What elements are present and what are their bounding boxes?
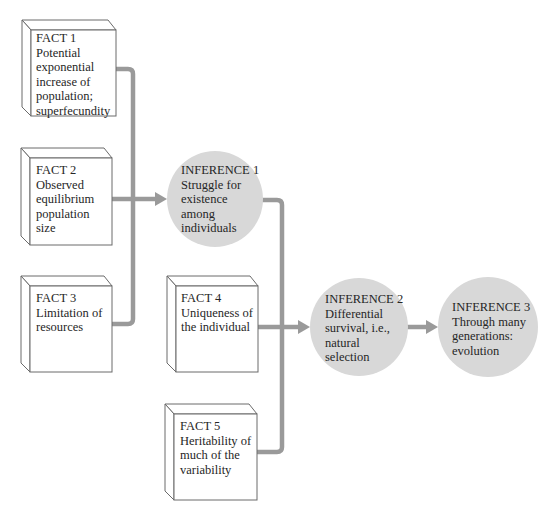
fact-1-line: exponential <box>36 60 110 75</box>
fact-1-line: population; <box>36 89 110 104</box>
box-left-bevel <box>22 20 31 116</box>
inference-2-line: selection <box>325 350 403 365</box>
connector-fact-1 <box>116 69 133 199</box>
inference-2-text: INFERENCE 2 Differential survival, i.e.,… <box>325 292 403 365</box>
connector-group-inference-3 <box>407 320 438 334</box>
fact-2-line: size <box>36 221 94 236</box>
fact-1-line: Potential <box>36 46 110 61</box>
arrowhead-icon <box>426 320 438 334</box>
fact-2-line: Observed <box>36 178 94 193</box>
connector-fact-3 <box>112 199 133 324</box>
arrowhead-icon <box>298 320 310 334</box>
fact-5-title: FACT 5 <box>180 419 251 434</box>
box-top-bevel <box>21 148 112 158</box>
box-left-bevel <box>21 148 30 245</box>
fact-5-line: variability <box>180 463 251 478</box>
fact-5-line: much of the <box>180 448 251 463</box>
fact-1-line: superfecundity <box>36 104 110 119</box>
fact-4-title: FACT 4 <box>181 291 253 306</box>
connector-group-inference-1 <box>112 69 167 324</box>
fact-2-line: equilibrium <box>36 192 94 207</box>
fact-5-text: FACT 5 Heritability of much of the varia… <box>180 419 251 477</box>
fact-3-title: FACT 3 <box>36 291 102 306</box>
box-left-bevel <box>165 404 174 500</box>
inference-2-line: survival, i.e., <box>325 321 403 336</box>
fact-1-title: FACT 1 <box>36 31 110 46</box>
fact-1-line: increase of <box>36 75 110 90</box>
arrowhead-icon <box>155 192 167 206</box>
connector-group-inference-2 <box>257 200 310 452</box>
connector-fact-5 <box>257 327 282 452</box>
inference-3-title: INFERENCE 3 <box>452 300 530 315</box>
fact-1-text: FACT 1 Potential exponential increase of… <box>36 31 110 119</box>
inference-1-line: existence <box>181 192 259 207</box>
box-left-bevel <box>21 276 30 372</box>
inference-1-line: individuals <box>181 221 259 236</box>
connector-inference-1 <box>262 200 282 327</box>
fact-2-text: FACT 2 Observed equilibrium population s… <box>36 163 94 236</box>
fact-4-text: FACT 4 Uniqueness of the individual <box>181 291 253 335</box>
box-left-bevel <box>167 276 176 372</box>
fact-3-line: resources <box>36 320 102 335</box>
fact-3-line: Limitation of <box>36 306 102 321</box>
fact-2-title: FACT 2 <box>36 163 94 178</box>
fact-2-line: population <box>36 207 94 222</box>
inference-1-text: INFERENCE 1 Struggle for existence among… <box>181 163 259 236</box>
box-top-bevel <box>165 404 257 414</box>
fact-5-line: Heritability of <box>180 434 251 449</box>
inference-3-line: Through many <box>452 315 530 330</box>
inference-3-text: INFERENCE 3 Through many generations: ev… <box>452 300 530 358</box>
inference-1-title: INFERENCE 1 <box>181 163 259 178</box>
fact-4-line: Uniqueness of <box>181 306 253 321</box>
box-top-bevel <box>167 276 258 286</box>
box-top-bevel <box>21 276 112 286</box>
fact-3-text: FACT 3 Limitation of resources <box>36 291 102 335</box>
inference-1-line: Struggle for <box>181 178 259 193</box>
box-top-bevel <box>22 20 116 30</box>
fact-4-line: the individual <box>181 320 253 335</box>
inference-1-line: among <box>181 207 259 222</box>
inference-3-line: evolution <box>452 344 530 359</box>
inference-2-title: INFERENCE 2 <box>325 292 403 307</box>
inference-2-line: Differential <box>325 307 403 322</box>
inference-3-line: generations: <box>452 329 530 344</box>
inference-2-line: natural <box>325 336 403 351</box>
